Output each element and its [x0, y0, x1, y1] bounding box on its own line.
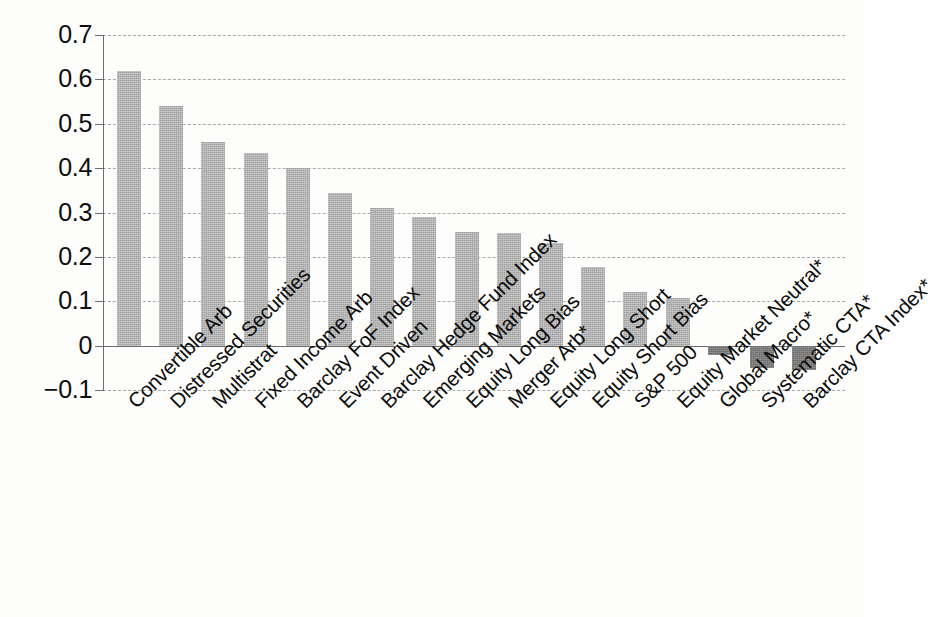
- y-axis-tick-labels: 0.70.60.50.40.30.20.10−0.1: [0, 0, 92, 617]
- y-axis-tick-label: 0.1: [4, 288, 92, 313]
- gridline: [103, 79, 845, 80]
- y-axis-tick: [95, 35, 104, 36]
- y-axis-tick-label: 0.6: [4, 66, 92, 91]
- y-axis-tick: [95, 124, 104, 125]
- y-axis-tick-label: 0.7: [4, 22, 92, 47]
- y-axis-tick: [95, 213, 104, 214]
- y-axis-tick: [95, 168, 104, 169]
- y-axis-tick-label: −0.1: [4, 377, 92, 402]
- y-axis-tick-label: 0.3: [4, 200, 92, 225]
- y-axis-tick: [95, 79, 104, 80]
- y-axis-tick: [95, 257, 104, 258]
- y-axis-tick-label: 0.5: [4, 111, 92, 136]
- gridline: [103, 124, 845, 125]
- y-axis-tick: [95, 390, 104, 391]
- y-axis-tick: [95, 301, 104, 302]
- y-axis-tick-label: 0.4: [4, 155, 92, 180]
- y-axis-tick-label: 0.2: [4, 244, 92, 269]
- gridline: [103, 35, 845, 36]
- y-axis-tick: [95, 346, 104, 347]
- bar: [159, 106, 183, 346]
- y-axis-tick-label: 0: [4, 333, 92, 358]
- bar: [117, 71, 141, 346]
- bar: [286, 168, 310, 346]
